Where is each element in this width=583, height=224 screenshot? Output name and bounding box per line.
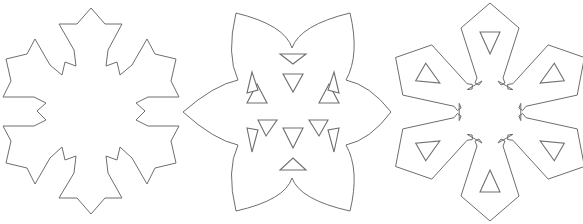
snowflake-outline [3,8,179,214]
snowflake-templates-figure [0,0,583,224]
snowflake-jagged [3,8,179,214]
star-snowflake-with-triangle-cutouts [183,13,391,211]
star-outline [183,13,391,211]
snowflake-blocky-with-triangle-cutouts [396,3,583,221]
